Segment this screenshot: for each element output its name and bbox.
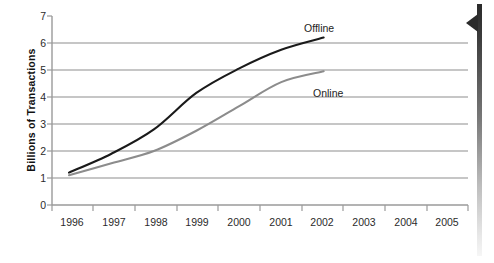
x-tick-label: 1999 xyxy=(185,216,208,228)
gridlines xyxy=(52,43,468,178)
x-tick-label: 2002 xyxy=(310,216,333,228)
x-tick-label: 2000 xyxy=(227,216,250,228)
axis-lines xyxy=(52,16,468,205)
x-tick-label: 1996 xyxy=(60,216,83,228)
x-tick-label: 1998 xyxy=(144,216,167,228)
x-tick-label: 2004 xyxy=(394,216,417,228)
x-tick-label: 2003 xyxy=(352,216,375,228)
vertical-scrollbar[interactable] xyxy=(477,4,482,256)
y-axis-ticks xyxy=(47,16,52,205)
series-label-offline: Offline xyxy=(304,22,334,34)
x-axis-ticks xyxy=(52,205,468,211)
scroll-cursor-arrow-icon xyxy=(466,14,478,32)
x-tick-label: 1997 xyxy=(102,216,125,228)
series-line-offline xyxy=(69,38,324,173)
series-label-online: Online xyxy=(313,87,343,99)
chart-figure: Billions of Transactions 7 6 5 4 3 2 1 0 xyxy=(0,0,494,263)
x-tick-label: 2001 xyxy=(269,216,292,228)
series-line-online xyxy=(69,71,324,175)
x-tick-label: 2005 xyxy=(435,216,458,228)
